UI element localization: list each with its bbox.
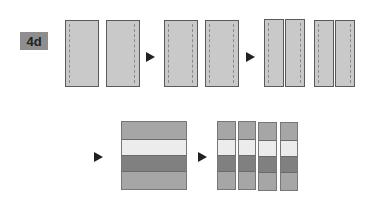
arrow-right-icon	[94, 152, 103, 162]
seam-line	[300, 23, 301, 83]
stripe-dark	[259, 157, 276, 174]
fabric-strip	[264, 19, 284, 87]
seam-line	[168, 24, 169, 83]
fabric-panel	[106, 20, 140, 87]
stripe-light	[218, 140, 235, 156]
seam-line	[209, 24, 210, 83]
arrow-right-icon	[146, 52, 155, 62]
stripe-mid	[281, 123, 297, 141]
fabric-panel	[205, 20, 239, 87]
seam-line	[268, 23, 269, 83]
stripe-light	[259, 141, 276, 157]
cut-segment	[258, 122, 277, 191]
seam-line	[350, 24, 351, 83]
cut-segment	[217, 121, 236, 190]
stripe-mid	[239, 122, 255, 140]
fabric-panel	[65, 20, 99, 87]
step-label: 4d	[20, 32, 48, 50]
fabric-panel	[164, 20, 198, 87]
arrow-right-icon	[198, 152, 207, 162]
seam-line	[233, 24, 234, 83]
cut-segment	[238, 121, 256, 190]
stripe-dark	[239, 156, 255, 173]
stripe-light	[281, 141, 297, 157]
stripe-dark	[218, 156, 235, 173]
stripe-mid	[259, 123, 276, 141]
cut-segment	[280, 122, 298, 191]
stripe-mid	[122, 172, 186, 189]
seam-line	[69, 24, 70, 83]
stripe-mid	[122, 122, 186, 140]
stripe-mid	[239, 172, 255, 189]
stripe-dark	[122, 156, 186, 173]
stripe-dark	[281, 157, 297, 174]
stripe-mid	[281, 173, 297, 190]
fabric-strip	[335, 20, 355, 87]
stripe-mid	[218, 122, 235, 140]
arrow-right-icon	[246, 52, 255, 62]
fabric-strip	[285, 19, 305, 87]
seam-line	[318, 24, 319, 83]
seam-line	[134, 24, 135, 83]
seam-line	[192, 24, 193, 83]
strip-set	[121, 121, 187, 190]
stripe-light	[239, 140, 255, 156]
stripe-mid	[218, 172, 235, 189]
stripe-mid	[259, 173, 276, 190]
stripe-light	[122, 140, 186, 156]
fabric-strip	[314, 20, 334, 87]
